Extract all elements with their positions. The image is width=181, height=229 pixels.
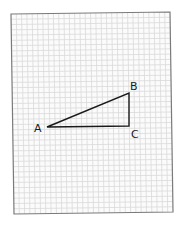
vertex-label-a: A xyxy=(34,122,42,135)
graph-paper-figure: A B C xyxy=(0,0,181,229)
vertex-label-c: C xyxy=(131,128,139,141)
vertex-label-b: B xyxy=(130,80,138,93)
